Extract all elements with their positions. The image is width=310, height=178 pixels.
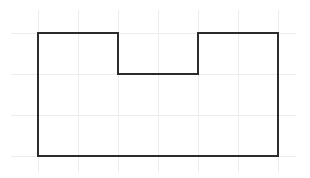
diagram-canvas <box>0 0 310 178</box>
background <box>0 0 310 178</box>
